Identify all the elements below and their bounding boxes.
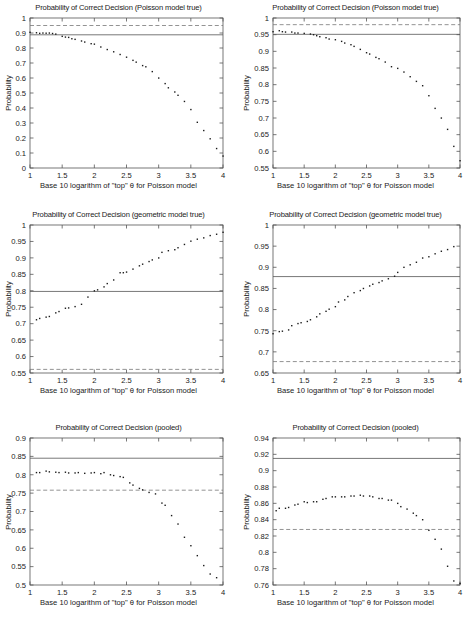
data-point <box>216 577 217 578</box>
data-point <box>164 505 165 506</box>
data-point <box>139 488 140 489</box>
data-point <box>55 472 56 473</box>
data-point <box>148 261 149 262</box>
x-tick-label: 2.5 <box>121 588 132 597</box>
data-point <box>307 321 308 322</box>
data-point <box>272 333 273 334</box>
plot-area: 11.522.533.540.550.60.650.70.750.80.850.… <box>237 0 474 205</box>
x-tick-label: 4 <box>458 588 462 597</box>
x-tick-label: 3.5 <box>186 376 197 385</box>
data-point <box>447 129 448 130</box>
data-point <box>353 495 354 496</box>
data-point <box>459 583 460 584</box>
data-point <box>381 280 382 281</box>
x-tick-label: 3 <box>157 171 161 180</box>
y-tick-label: 0.65 <box>11 526 26 535</box>
data-point <box>328 38 329 39</box>
y-tick-label: 1 <box>265 221 269 230</box>
data-point <box>279 508 280 509</box>
x-tick-label: 1.5 <box>57 588 68 597</box>
data-point <box>360 290 361 291</box>
data-point <box>366 52 367 53</box>
y-tick-label: 0.8 <box>15 44 26 53</box>
data-point <box>62 36 63 37</box>
plot-box <box>30 225 223 373</box>
data-point <box>110 474 111 475</box>
data-point <box>49 32 50 33</box>
panel-middle-right: Probability of Correct Decision (geometr… <box>237 205 474 405</box>
data-point <box>360 49 361 50</box>
x-tick-label: 4 <box>221 171 225 180</box>
y-tick-label: 1 <box>265 14 269 23</box>
y-tick-label: 0.6 <box>15 74 26 83</box>
y-tick-label: 0.9 <box>15 29 26 38</box>
data-point <box>391 499 392 500</box>
y-tick-label: 0.75 <box>254 97 269 106</box>
x-tick-label: 1.5 <box>57 171 68 180</box>
y-tick-label: 1 <box>22 221 26 230</box>
data-point <box>294 504 295 505</box>
data-point <box>316 501 317 502</box>
data-point <box>344 496 345 497</box>
data-point <box>145 66 146 67</box>
y-tick-label: 0.55 <box>11 562 26 571</box>
y-tick-label: 0.8 <box>258 80 269 89</box>
x-tick-label: 4 <box>458 171 462 180</box>
data-point <box>300 322 301 323</box>
data-point <box>372 284 373 285</box>
data-point <box>119 54 120 55</box>
data-point <box>406 508 407 509</box>
data-point <box>216 234 217 235</box>
data-point <box>123 272 124 273</box>
y-tick-label: 0.95 <box>11 237 26 246</box>
data-point <box>36 32 37 33</box>
y-tick-label: 0.6 <box>15 544 26 553</box>
y-tick-label: 0.7 <box>258 348 269 357</box>
y-tick-label: 0.85 <box>11 270 26 279</box>
data-point <box>119 476 120 477</box>
data-point <box>113 51 114 52</box>
data-point <box>126 57 127 58</box>
x-tick-label: 4 <box>221 376 225 385</box>
data-point <box>129 482 130 483</box>
data-point <box>441 548 442 549</box>
data-point <box>45 470 46 471</box>
data-point <box>49 471 50 472</box>
data-point <box>65 36 66 37</box>
data-point <box>65 472 66 473</box>
panel-middle-left: Probability of Correct Decision (geometr… <box>0 205 237 405</box>
data-point <box>434 108 435 109</box>
data-point <box>222 155 223 156</box>
data-point <box>416 262 417 263</box>
data-point <box>325 311 326 312</box>
y-tick-label: 0.65 <box>254 130 269 139</box>
data-point <box>203 130 204 131</box>
data-point <box>316 35 317 36</box>
data-point <box>409 264 410 265</box>
plot-area: 11.522.533.540.550.60.650.70.750.80.850.… <box>0 205 237 405</box>
data-point <box>177 95 178 96</box>
data-point <box>350 495 351 496</box>
data-point <box>158 257 159 258</box>
data-point <box>68 37 69 38</box>
data-point <box>316 316 317 317</box>
data-point <box>81 304 82 305</box>
data-point <box>313 501 314 502</box>
data-point <box>65 308 66 309</box>
data-point <box>422 85 423 86</box>
data-point <box>90 472 91 473</box>
data-point <box>279 30 280 31</box>
x-tick-label: 2.5 <box>121 376 132 385</box>
plot-area: 11.522.533.5400.10.20.30.40.50.60.70.80.… <box>0 0 237 205</box>
data-point <box>297 504 298 505</box>
x-tick-label: 3.5 <box>424 588 435 597</box>
data-point <box>39 33 40 34</box>
data-point <box>363 288 364 289</box>
data-point <box>310 33 311 34</box>
data-point <box>434 539 435 540</box>
data-point <box>291 325 292 326</box>
data-point <box>335 306 336 307</box>
data-point <box>203 565 204 566</box>
y-tick-label: 0.75 <box>11 303 26 312</box>
y-tick-label: 0.5 <box>15 89 26 98</box>
